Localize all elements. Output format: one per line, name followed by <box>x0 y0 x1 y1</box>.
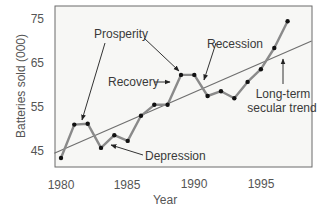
data-point <box>139 114 143 118</box>
data-point <box>272 46 276 50</box>
data-point <box>259 67 263 71</box>
data-point <box>285 19 289 23</box>
data-point <box>152 103 156 107</box>
annotation-recovery: Recovery <box>108 75 159 89</box>
data-point <box>72 122 76 126</box>
x-tick: 1990 <box>181 177 208 191</box>
data-point <box>179 73 183 77</box>
annotation-trend-line1: Long-term <box>256 87 311 101</box>
annotation-depression: Depression <box>145 149 206 163</box>
annotation-recession: Recession <box>207 37 263 51</box>
y-tick: 55 <box>31 100 45 114</box>
data-point <box>112 133 116 137</box>
line-chart: 75 65 55 45 Batteries sold (000) 1980 19… <box>0 0 329 217</box>
data-point <box>86 122 90 126</box>
x-tick: 1995 <box>248 177 275 191</box>
data-point <box>99 146 103 150</box>
x-tick: 1980 <box>48 178 75 192</box>
y-axis-title: Batteries sold (000) <box>14 34 28 138</box>
data-point <box>219 89 223 93</box>
y-tick: 45 <box>31 144 45 158</box>
x-axis-ticks: 1980 1985 1990 1995 <box>48 177 275 192</box>
data-point <box>245 80 249 84</box>
data-point <box>192 73 196 77</box>
annotation-prosperity: Prosperity <box>94 27 148 41</box>
y-tick: 75 <box>31 12 45 26</box>
data-point <box>165 103 169 107</box>
annotation-trend-line2: secular trend <box>247 101 316 115</box>
y-tick: 65 <box>31 56 45 70</box>
y-axis-ticks: 75 65 55 45 <box>31 12 45 158</box>
data-point <box>205 94 209 98</box>
data-point <box>232 96 236 100</box>
x-tick: 1985 <box>114 178 141 192</box>
data-point <box>126 139 130 143</box>
x-axis-title: Year <box>153 193 177 207</box>
data-point <box>59 156 63 160</box>
